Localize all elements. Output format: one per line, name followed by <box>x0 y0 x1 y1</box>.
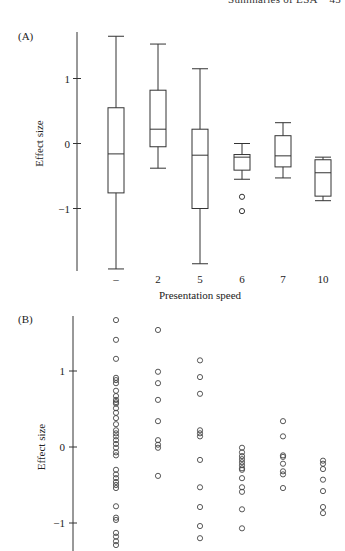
data-point <box>197 457 202 462</box>
iqr-box <box>108 108 124 193</box>
outlier-point <box>239 194 244 199</box>
data-point <box>197 485 202 490</box>
data-point <box>280 461 285 466</box>
data-point <box>197 536 202 541</box>
scatter-column-5 <box>280 419 285 491</box>
x-tick-label: 2 <box>155 273 161 285</box>
iqr-box <box>275 136 291 167</box>
y-axis-label: Effect size <box>33 120 45 167</box>
data-point <box>197 358 202 363</box>
box-2 <box>150 44 166 168</box>
data-point <box>155 419 160 424</box>
x-tick-label: 7 <box>280 273 286 285</box>
box-1 <box>108 36 124 269</box>
data-point <box>113 356 118 361</box>
box-4 <box>234 144 250 214</box>
panel-a-boxplot: −101Effect size–256710Presentation speed <box>33 32 331 301</box>
data-point <box>280 434 285 439</box>
data-point <box>155 397 160 402</box>
y-tick-label: 0 <box>65 138 71 150</box>
data-point <box>239 476 244 481</box>
data-point <box>197 374 202 379</box>
x-tick-label: 6 <box>239 273 245 285</box>
data-point <box>197 504 202 509</box>
data-point <box>320 511 325 516</box>
data-point <box>113 542 118 547</box>
data-point <box>197 523 202 528</box>
iqr-box <box>315 160 331 196</box>
scatter-column-1 <box>113 317 118 547</box>
data-point <box>280 485 285 490</box>
scatter-column-4 <box>239 445 244 531</box>
data-point <box>320 477 325 482</box>
data-point <box>155 473 160 478</box>
scatter-column-3 <box>197 358 202 541</box>
box-6 <box>315 157 331 201</box>
figure-canvas: −101Effect size–256710Presentation speed… <box>0 0 345 551</box>
data-point <box>239 526 244 531</box>
y-tick-label: 1 <box>60 365 66 377</box>
data-point <box>280 419 285 424</box>
x-tick-label: 5 <box>197 273 203 285</box>
box-5 <box>275 123 291 178</box>
y-axis-label: Effect size <box>35 424 47 471</box>
data-point <box>239 507 244 512</box>
data-point <box>155 381 160 386</box>
data-point <box>113 337 118 342</box>
data-point <box>113 422 118 427</box>
iqr-box <box>192 129 208 208</box>
data-point <box>113 504 118 509</box>
data-point <box>320 488 325 493</box>
data-point <box>155 327 160 332</box>
panel-b-scatter: −101Effect size <box>35 316 326 551</box>
data-point <box>155 369 160 374</box>
x-axis-label: Presentation speed <box>159 289 242 301</box>
data-point <box>320 466 325 471</box>
scatter-column-6 <box>320 458 325 516</box>
outlier-point <box>239 209 244 214</box>
y-tick-label: −1 <box>53 517 65 529</box>
data-point <box>113 416 118 421</box>
y-tick-label: 1 <box>65 73 71 85</box>
data-point <box>113 317 118 322</box>
x-tick-label: 10 <box>318 273 330 285</box>
y-tick-label: −1 <box>58 203 70 215</box>
data-point <box>113 388 118 393</box>
data-point <box>197 391 202 396</box>
y-tick-label: 0 <box>60 441 66 453</box>
scatter-column-2 <box>155 327 160 478</box>
box-3 <box>192 69 208 264</box>
data-point <box>320 504 325 509</box>
iqr-box <box>150 90 166 147</box>
x-tick-label: – <box>112 273 119 285</box>
